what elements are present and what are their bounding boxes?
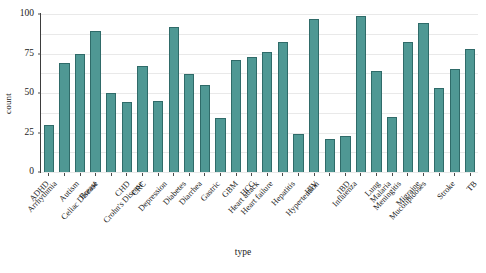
bar[interactable] — [153, 101, 163, 172]
x-tick-mark — [314, 173, 315, 176]
bar-slot — [135, 14, 151, 172]
x-tick-slot — [213, 173, 229, 177]
x-tick-mark — [407, 173, 408, 176]
bar[interactable] — [293, 134, 303, 172]
x-tick-mark — [111, 173, 112, 176]
y-tick-label: 25 — [25, 128, 35, 138]
x-tick-slot — [275, 173, 291, 177]
x-tick-slot — [416, 173, 432, 177]
bar[interactable] — [215, 118, 225, 172]
bar-slot — [103, 14, 119, 172]
x-tick-mark — [392, 173, 393, 176]
x-tick-mark — [439, 173, 440, 176]
x-tick-mark — [298, 173, 299, 176]
bar[interactable] — [75, 54, 85, 173]
y-tick-mark — [38, 132, 41, 133]
bar-slot — [228, 14, 244, 172]
bar-slot — [291, 14, 307, 172]
bar[interactable] — [371, 71, 381, 172]
x-tick-slot — [181, 173, 197, 177]
y-axis-title: count — [1, 74, 15, 134]
bar[interactable] — [184, 74, 194, 172]
bar[interactable] — [340, 136, 350, 172]
x-tick-slot — [431, 173, 447, 177]
bar-slot — [197, 14, 213, 172]
x-tick-slot — [103, 173, 119, 177]
x-tick-slot — [306, 173, 322, 177]
bar[interactable] — [137, 66, 147, 172]
bar[interactable] — [418, 23, 428, 172]
bar-slot — [150, 14, 166, 172]
bar[interactable] — [356, 16, 366, 172]
x-tick-slot — [197, 173, 213, 177]
bar-slot — [400, 14, 416, 172]
x-tick-mark — [345, 173, 346, 176]
x-tick-mark — [376, 173, 377, 176]
x-tick-slot — [57, 173, 73, 177]
x-tick-mark — [220, 173, 221, 176]
x-tick-label-slot: Stroke — [447, 178, 463, 240]
bar[interactable] — [169, 27, 179, 172]
x-tick-mark — [64, 173, 65, 176]
x-tick-slot — [166, 173, 182, 177]
bar[interactable] — [90, 31, 100, 172]
bar[interactable] — [262, 52, 272, 172]
bar[interactable] — [122, 102, 132, 172]
bar-slot — [416, 14, 432, 172]
bar-slot — [462, 14, 478, 172]
bar[interactable] — [434, 88, 444, 172]
x-tick-slot — [72, 173, 88, 177]
x-tick-slot — [228, 173, 244, 177]
x-tick-mark — [236, 173, 237, 176]
bar-slot — [166, 14, 182, 172]
x-axis-tick-labels: ADHDArrhythmiaAutismBreastCeliac Disease… — [41, 178, 478, 240]
bar-chart: count 0255075100 ADHDArrhythmiaAutismBre… — [0, 0, 486, 273]
bar-slot — [306, 14, 322, 172]
bar-slot — [275, 14, 291, 172]
bar-slot — [447, 14, 463, 172]
x-tick-mark — [204, 173, 205, 176]
bar-slot — [88, 14, 104, 172]
x-tick-slot — [384, 173, 400, 177]
bar[interactable] — [231, 60, 241, 172]
bar-slot — [181, 14, 197, 172]
bar[interactable] — [44, 125, 54, 172]
bar-slot — [384, 14, 400, 172]
x-tick-slot — [447, 173, 463, 177]
bar[interactable] — [387, 117, 397, 172]
x-tick-mark — [282, 173, 283, 176]
x-tick-mark — [423, 173, 424, 176]
x-tick-slot — [150, 173, 166, 177]
bar-slot — [260, 14, 276, 172]
bar[interactable] — [465, 49, 475, 172]
x-tick-slot — [291, 173, 307, 177]
bar[interactable] — [200, 85, 210, 172]
x-tick-slot — [119, 173, 135, 177]
bar[interactable] — [403, 42, 413, 172]
bar-slot — [41, 14, 57, 172]
bar[interactable] — [106, 93, 116, 172]
bar-slot — [72, 14, 88, 172]
x-tick-label-slot: TB — [462, 178, 478, 240]
y-tick-label: 100 — [20, 9, 34, 19]
x-tick-slot — [260, 173, 276, 177]
x-tick-slot — [322, 173, 338, 177]
x-axis-title: type — [0, 247, 486, 257]
x-tick-mark — [126, 173, 127, 176]
bar[interactable] — [247, 57, 257, 172]
y-tick-label: 75 — [25, 49, 35, 59]
bar[interactable] — [450, 69, 460, 172]
x-tick-slot — [244, 173, 260, 177]
bar[interactable] — [278, 42, 288, 172]
bar[interactable] — [325, 139, 335, 172]
bar-slot — [322, 14, 338, 172]
x-tick-mark — [329, 173, 330, 176]
bar[interactable] — [59, 63, 69, 172]
bar-slot — [57, 14, 73, 172]
x-tick-mark — [173, 173, 174, 176]
bar[interactable] — [309, 19, 319, 172]
bar-slot — [213, 14, 229, 172]
x-tick-slot — [338, 173, 354, 177]
x-tick-label-slot: Hypertention — [322, 178, 338, 240]
y-tick-label: 0 — [29, 167, 34, 177]
